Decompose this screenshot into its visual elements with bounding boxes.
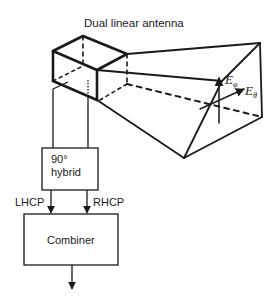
cube-top-face: [53, 36, 127, 70]
hybrid-label-line1: 90°: [51, 153, 68, 166]
horn-front-top-edge: [97, 70, 222, 81]
combiner-label: Combiner: [47, 234, 95, 247]
e-theta-arrow: [200, 89, 244, 109]
antenna-diagram: [0, 0, 272, 307]
title: Dual linear antenna: [84, 17, 184, 30]
horn-antenna: [53, 36, 262, 158]
horn-top-edge: [127, 43, 260, 54]
feed-network: [24, 80, 118, 289]
hybrid-label-line2: hybrid: [51, 166, 81, 179]
aperture-front-left: [184, 81, 222, 158]
lhcp-label: LHCP: [15, 196, 44, 209]
e-phi-label: Eφ: [225, 73, 237, 91]
cube-bottom-edge: [53, 81, 97, 100]
horn-bottom-edge: [97, 100, 184, 158]
aperture-right: [260, 43, 262, 117]
rhcp-label: RHCP: [93, 196, 124, 209]
aperture-bottom: [184, 117, 262, 158]
e-theta-label: Eθ: [245, 84, 257, 102]
